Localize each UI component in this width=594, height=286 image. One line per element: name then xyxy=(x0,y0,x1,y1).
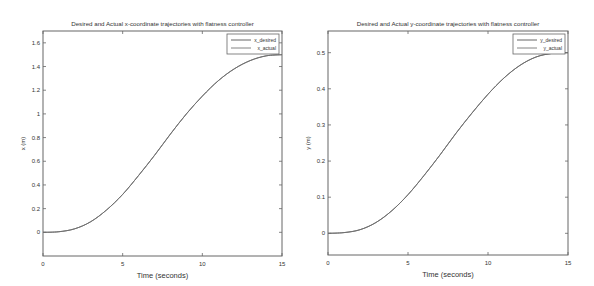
y-tick-label: 0.1 xyxy=(317,194,326,200)
legend-label: x_actual xyxy=(257,45,276,51)
y-tick-label: 0.4 xyxy=(32,182,41,188)
x-trajectory-chart: Desired and Actual x-coordinate trajecto… xyxy=(0,0,297,286)
x-tick-label: 10 xyxy=(199,261,206,267)
y-tick-label: 0.4 xyxy=(317,86,326,92)
legend-label: x_desired xyxy=(254,37,276,43)
y-axis-label: x (m) xyxy=(20,137,26,151)
y-axis-label: y (m) xyxy=(305,136,311,150)
y-tick-label: 1.2 xyxy=(32,87,41,93)
x-tick-label: 5 xyxy=(406,260,410,266)
legend-label: y_desired xyxy=(540,37,562,43)
y-tick-label: 0.2 xyxy=(317,158,326,164)
x-axis-label: Time (seconds) xyxy=(422,270,474,279)
y-tick-label: 0.3 xyxy=(317,122,326,128)
y-tick-label: 1.4 xyxy=(32,64,41,70)
legend-label: y_actual xyxy=(543,45,562,51)
figure-y-trajectory: Desired and Actual y-coordinate trajecto… xyxy=(297,0,594,286)
y-tick-label: 0.6 xyxy=(32,158,41,164)
x-tick-label: 15 xyxy=(565,260,572,266)
y-tick-label: 0.5 xyxy=(317,50,326,56)
x-axis-label: Time (seconds) xyxy=(137,271,189,280)
plot-area xyxy=(328,31,568,255)
x-tick-label: 10 xyxy=(485,260,492,266)
y-tick-label: 0.8 xyxy=(32,135,41,141)
plot-area xyxy=(43,31,282,256)
y-trajectory-chart: Desired and Actual y-coordinate trajecto… xyxy=(297,0,594,286)
legend: y_desiredy_actual xyxy=(513,34,565,54)
legend: x_desiredx_actual xyxy=(227,34,279,54)
x-tick-label: 0 xyxy=(326,260,330,266)
x-tick-label: 15 xyxy=(279,261,286,267)
chart-title: Desired and Actual x-coordinate trajecto… xyxy=(71,20,254,27)
y-tick-label: 0 xyxy=(37,229,41,235)
y-tick-label: 0.2 xyxy=(32,206,41,212)
y-tick-label: 0 xyxy=(322,230,326,236)
x-tick-label: 0 xyxy=(41,261,45,267)
x-tick-label: 5 xyxy=(121,261,125,267)
y-tick-label: 1.6 xyxy=(32,40,41,46)
chart-title: Desired and Actual y-coordinate trajecto… xyxy=(357,20,540,27)
y-tick-label: 1 xyxy=(37,111,41,117)
figure-x-trajectory: Desired and Actual x-coordinate trajecto… xyxy=(0,0,297,286)
